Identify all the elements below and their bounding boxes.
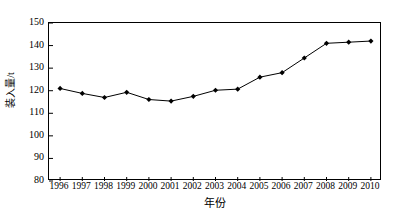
- x-tick-label: 2004: [227, 182, 246, 192]
- data-point-marker: [235, 87, 240, 92]
- data-point-marker: [169, 98, 174, 103]
- x-axis-title: 年份: [48, 198, 381, 209]
- x-axis-title-text: 年份: [204, 197, 226, 209]
- plot-area: [48, 22, 381, 180]
- x-tick-label: 2008: [316, 182, 335, 192]
- y-tick-label: 150: [29, 17, 44, 27]
- x-tick-label: 1997: [72, 182, 91, 192]
- x-tick-label: 2007: [294, 182, 313, 192]
- data-point-marker: [102, 95, 107, 100]
- data-point-marker: [368, 38, 373, 43]
- data-point-marker: [80, 91, 85, 96]
- data-point-marker: [280, 70, 285, 75]
- y-tick-label: 110: [29, 107, 44, 117]
- y-tick-label: 80: [34, 175, 44, 185]
- x-tick-label: 2009: [338, 182, 357, 192]
- x-tick-label: 2000: [138, 182, 157, 192]
- x-tick-label: 2001: [161, 182, 180, 192]
- data-point-marker: [346, 40, 351, 45]
- data-point-marker: [257, 75, 262, 80]
- x-axis-tick-labels: 1996199719981999200020012002200320042005…: [48, 182, 381, 196]
- data-point-marker: [124, 90, 129, 95]
- x-tick-label: 2005: [249, 182, 268, 192]
- data-point-marker: [58, 86, 63, 91]
- x-tick-label: 1998: [94, 182, 113, 192]
- axis-tick-marks: [49, 23, 371, 181]
- data-point-marker: [213, 88, 218, 93]
- x-tick-label: 1996: [50, 182, 69, 192]
- series-markers: [58, 38, 374, 103]
- y-tick-label: 130: [29, 62, 44, 72]
- data-point-marker: [324, 41, 329, 46]
- y-axis-title-text: 装入量/t: [6, 72, 16, 108]
- x-tick-label: 2002: [183, 182, 202, 192]
- data-point-marker: [302, 55, 307, 60]
- y-axis-title: 装入量/t: [0, 0, 22, 180]
- y-tick-label: 140: [29, 40, 44, 50]
- x-tick-label: 2006: [272, 182, 291, 192]
- x-tick-label: 1999: [116, 182, 135, 192]
- chart-figure: 装入量/t 8090100110120130140150 19961997199…: [0, 0, 401, 220]
- y-tick-label: 90: [34, 152, 44, 162]
- series-canvas: [48, 22, 383, 182]
- y-axis-tick-labels: 8090100110120130140150: [20, 0, 46, 220]
- data-point-marker: [191, 94, 196, 99]
- x-tick-label: 2003: [205, 182, 224, 192]
- y-tick-label: 100: [29, 130, 44, 140]
- data-point-marker: [146, 97, 151, 102]
- x-tick-label: 2010: [360, 182, 379, 192]
- y-tick-label: 120: [29, 85, 44, 95]
